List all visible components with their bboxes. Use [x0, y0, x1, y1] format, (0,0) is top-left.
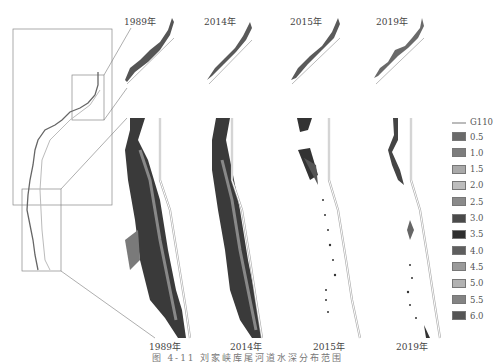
legend-label: 3.0: [470, 213, 484, 223]
legend-swatch: [452, 148, 466, 157]
legend-swatch: [452, 181, 466, 190]
legend-label: 2.0: [470, 180, 484, 190]
legend-item: 3.5: [452, 229, 484, 240]
legend-item: 3.0: [452, 213, 484, 224]
legend-item: 2.5: [452, 196, 484, 207]
legend-swatch: [452, 246, 466, 255]
bottom-map-2019: [388, 118, 440, 338]
legend-item: 6.0: [452, 310, 484, 321]
legend-swatch: [452, 132, 466, 141]
legend-label: 3.5: [470, 229, 484, 239]
bottom-map-1989: [125, 118, 190, 338]
legend-label: 0.5: [470, 132, 484, 142]
top-year-label: 1989年: [124, 15, 156, 28]
overview-frame: [13, 29, 112, 205]
legend-label: 4.5: [470, 262, 484, 272]
connector-line: [61, 271, 155, 338]
legend-item: 0.5: [452, 131, 484, 142]
legend-label: 1.0: [470, 148, 484, 158]
legend-item: 2.0: [452, 180, 484, 191]
legend-swatch: [452, 197, 466, 206]
legend-swatch: [452, 262, 466, 271]
top-year-label: 2014年: [204, 15, 236, 28]
connector-line: [61, 118, 127, 189]
legend-label: 4.0: [470, 246, 484, 256]
legend-label: 5.5: [470, 295, 484, 305]
legend-swatch: [452, 279, 466, 288]
legend-swatch: [452, 311, 466, 320]
top-year-label: 2019年: [376, 15, 408, 28]
top-year-label: 2015年: [290, 15, 322, 28]
connector-line: [104, 28, 131, 75]
legend-label: 1.5: [470, 164, 484, 174]
bottom-map-2015: [297, 118, 360, 338]
overview-road: [40, 90, 100, 270]
legend-road-label: G110: [470, 117, 493, 127]
legend-item: 5.5: [452, 294, 484, 305]
legend-item: 5.0: [452, 278, 484, 289]
legend-item: 4.5: [452, 261, 484, 272]
legend-label: 5.0: [470, 278, 484, 288]
legend-item: 1.5: [452, 164, 484, 175]
legend-label: 6.0: [470, 311, 484, 321]
legend-swatch: [452, 230, 466, 239]
legend-swatch: [452, 214, 466, 223]
top-map-2014: [207, 22, 252, 84]
legend-item: 1.0: [452, 147, 484, 158]
figure-canvas: [0, 0, 495, 364]
legend-swatch: [452, 165, 466, 174]
overview-river: [27, 72, 98, 270]
legend-label: 2.5: [470, 197, 484, 207]
figure-caption: 图 4-11 刘家峡库尾河道水深分布范围: [0, 351, 495, 364]
bottom-map-2014: [212, 118, 262, 338]
inset-box-upper: [72, 75, 104, 120]
legend-item: 4.0: [452, 245, 484, 256]
connector-line: [104, 88, 127, 120]
legend-swatch: [452, 295, 466, 304]
